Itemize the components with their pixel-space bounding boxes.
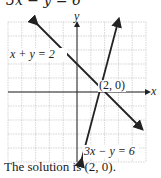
- x-axis-label: x: [150, 84, 157, 98]
- line-x-plus-y-eq-2: [35, 22, 140, 127]
- graph: y x x + y = 2 (2, 0) 3x − y = 6: [0, 0, 161, 178]
- label-line-2: 3x − y = 6: [83, 144, 135, 158]
- y-axis-label: y: [73, 9, 80, 23]
- label-solution-point: (2, 0): [99, 78, 125, 92]
- solution-caption: The solution is (2, 0).: [4, 159, 116, 175]
- label-line-1: x + y = 2: [9, 47, 55, 61]
